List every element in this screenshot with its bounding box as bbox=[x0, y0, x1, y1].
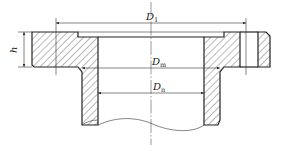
svg-text:Dm: Dm bbox=[151, 56, 166, 69]
h-label: h bbox=[8, 47, 19, 53]
dm-label: D bbox=[151, 56, 160, 67]
svg-text:Dn: Dn bbox=[152, 81, 165, 94]
flange-section-drawing: D1 Dm Dn h bbox=[0, 0, 282, 151]
dn-label: D bbox=[152, 81, 161, 92]
left-section bbox=[32, 32, 98, 125]
d1-label: D bbox=[145, 11, 154, 22]
right-section bbox=[204, 32, 270, 125]
dimension-h: h bbox=[8, 32, 24, 67]
svg-text:D1: D1 bbox=[145, 11, 158, 24]
